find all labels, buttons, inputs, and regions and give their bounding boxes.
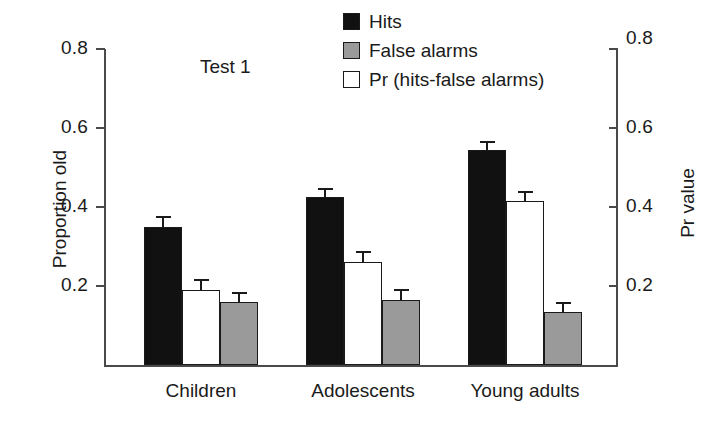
bar-false-alarms: [220, 302, 258, 365]
x-axis-spine: [104, 365, 618, 367]
bar-false-alarms: [382, 300, 420, 365]
error-bar-cap: [480, 141, 495, 143]
error-bar-cap: [232, 292, 247, 294]
bar-pr: [182, 290, 220, 365]
error-bar-cap: [156, 216, 171, 218]
bar-pr: [506, 201, 544, 365]
y-axis-right-title: Pr value: [677, 123, 699, 283]
bar-false-alarms: [544, 312, 582, 365]
bar-hits: [468, 150, 506, 365]
bar-hits: [306, 197, 344, 365]
x-axis-category-label: Young adults: [425, 380, 625, 402]
plot-area: [104, 49, 618, 365]
y-axis-right-tick-label: 0.2: [626, 274, 653, 296]
y-axis-right-tick-label: 0.4: [626, 195, 653, 217]
error-bar-cap: [356, 251, 371, 253]
bar-hits: [144, 227, 182, 365]
y-axis-right-tick-label: 0.8: [626, 27, 653, 49]
error-bar-cap: [518, 191, 533, 193]
y-axis-right-tick-label: 0.6: [626, 116, 653, 138]
error-bar-cap: [194, 279, 209, 281]
bar-pr: [344, 262, 382, 365]
error-bar-cap: [556, 302, 571, 304]
bar-chart-figure: Hits False alarms Pr (hits-false alarms)…: [0, 0, 722, 430]
legend-item-hits: Hits: [343, 10, 544, 33]
legend-swatch-hits-icon: [343, 13, 360, 30]
error-bar-cap: [318, 188, 333, 190]
y-axis-left-tick-label: 0.8: [61, 37, 88, 59]
legend-label-hits: Hits: [369, 12, 402, 31]
error-bar-cap: [394, 289, 409, 291]
y-axis-left-title: Proportion old: [49, 109, 71, 309]
